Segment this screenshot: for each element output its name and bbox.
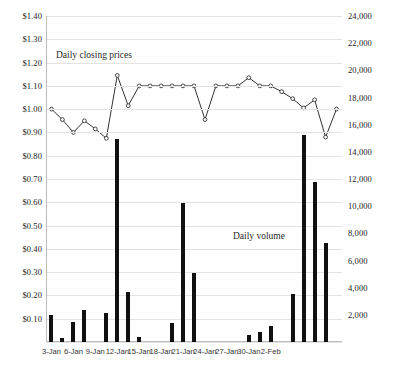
volume-bar [71,322,75,342]
volume-bar [247,335,251,342]
x-axis-tick-label: 27-Jan [215,347,238,356]
gridline [46,202,342,203]
gridline [46,16,342,17]
volume-bar [82,310,86,342]
x-axis-tick-label: 3-Jan [42,347,61,356]
price-data-point [104,136,108,140]
left-axis-tick-label: $1.00 [22,104,42,114]
gridline [46,39,342,40]
x-axis-tick-label: 6-Jan [64,347,83,356]
left-axis-tick-label: $1.30 [22,34,42,44]
volume-bar [126,292,130,342]
price-data-point [83,119,87,123]
x-axis-tick-label: 9-Jan [86,347,105,356]
volume-bar [192,273,196,342]
plot-area [46,16,342,342]
left-axis-tick-label: $1.40 [22,11,42,21]
price-series-label: Daily closing prices [56,50,132,60]
volume-bar [181,203,185,342]
right-axis-tick-label: 12,000 [348,174,372,184]
gridline [46,249,342,250]
price-data-point [61,118,65,122]
right-axis-tick-label: 8,000 [348,228,368,238]
volume-bar [137,337,141,342]
volume-bar [170,323,174,342]
price-data-point [324,135,328,139]
volume-series-label: Daily volume [233,231,285,241]
price-data-point [203,118,207,122]
right-axis-tick-label: 22,000 [348,38,372,48]
right-axis-tick-label: 2,000 [348,310,368,320]
volume-bar [291,294,295,342]
gridline [46,132,342,133]
left-axis-tick-label: $0.20 [22,290,42,300]
gridline [46,156,342,157]
volume-bar [302,135,306,342]
right-axis-tick-label: 16,000 [348,120,372,130]
volume-bar [104,313,108,342]
right-axis-tick-label: 6,000 [348,256,368,266]
footnote-text [4,372,414,382]
gridline [46,342,342,343]
left-axis-tick-label: $0.70 [22,174,42,184]
price-data-point [280,90,284,94]
left-axis-tick-label: $1.10 [22,81,42,91]
right-y-axis: 2,0004,0006,0008,00010,00012,00014,00016… [348,16,410,342]
left-axis-tick-label: $0.40 [22,244,42,254]
left-axis-tick-label: $0.30 [22,267,42,277]
gridline [46,109,342,110]
price-data-point [313,98,317,102]
left-axis-tick-label: $0.80 [22,151,42,161]
left-axis-tick-label: $1.20 [22,58,42,68]
x-axis-tick-label: 18-Jan [149,347,172,356]
left-axis-tick-label: $0.50 [22,221,42,231]
x-axis-tick-label: 21-Jan [171,347,194,356]
right-axis-tick-label: 18,000 [348,93,372,103]
chart-container: $0.10$0.20$0.30$0.40$0.50$0.60$0.70$0.80… [0,0,418,382]
left-y-axis: $0.10$0.20$0.30$0.40$0.50$0.60$0.70$0.80… [0,16,42,342]
x-axis-tick-label: 12-Jan [106,347,129,356]
gridline [46,179,342,180]
right-axis-tick-label: 4,000 [348,283,368,293]
right-axis-tick-label: 24,000 [348,11,372,21]
x-axis-tick-label: 30-Jan [237,347,260,356]
right-axis-tick-label: 20,000 [348,65,372,75]
volume-bar [313,182,317,342]
x-axis-tick-labels: 3-Jan6-Jan9-Jan12-Jan15-Jan18-Jan21-Jan2… [46,347,342,363]
price-data-point [93,127,97,131]
gridline [46,226,342,227]
axis-left-line [46,16,47,342]
volume-bar [324,243,328,342]
price-data-point [126,104,130,108]
right-axis-tick-label: 10,000 [348,201,372,211]
gridline [46,86,342,87]
price-data-point [115,74,119,78]
volume-bar [49,315,53,342]
price-data-point [247,76,251,80]
volume-bar [60,338,64,342]
volume-bar [115,139,119,342]
price-data-point [291,97,295,101]
left-axis-tick-label: $0.10 [22,314,42,324]
x-axis-tick-label: 2-Feb [261,347,281,356]
x-axis-tick-label: 15-Jan [128,347,151,356]
gridline [46,63,342,64]
volume-bar [269,326,273,342]
left-axis-tick-label: $0.90 [22,127,42,137]
right-axis-tick-label: 14,000 [348,147,372,157]
volume-bar [258,332,262,342]
left-axis-tick-label: $0.60 [22,197,42,207]
x-axis-tick-label: 24-Jan [193,347,216,356]
